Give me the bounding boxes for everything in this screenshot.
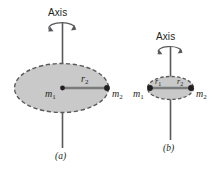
mass-label-m1-b-subscript: 1 [140,93,144,101]
mass-marker-m2-a [104,85,110,91]
radius-label-r2-b: r2 [177,78,183,86]
mass-label-m2-b-subscript: 2 [203,93,207,101]
radius-label-r1-b-subscript: 1 [158,81,161,87]
mass-label-m2-b: m2 [196,89,207,99]
radius-label-r2-a: r2 [81,74,88,84]
mass-marker-m1-a [60,86,65,91]
panel-a-graphics [15,23,110,149]
panel-caption-b: (b) [163,144,174,154]
radius-label-r2-b-subscript: 2 [180,81,183,87]
mass-marker-m1-b [147,85,153,91]
radius-label-r2-a-subscript: 2 [85,78,89,86]
physics-figure: Axis m1 r2 m2 (a) Axis m1 r1 r2 m2 (b) [0,0,214,169]
mass-label-m2-a-subscript: 2 [119,93,123,101]
panel-caption-a: (a) [55,152,66,162]
mass-label-m1-a: m1 [45,89,56,99]
mass-label-m1-b: m1 [133,89,144,99]
axis-label-a: Axis [48,8,67,18]
mass-marker-m2-b [188,85,194,91]
mass-label-m2-a: m2 [112,89,123,99]
radius-label-r1-b: r1 [155,78,161,86]
axis-label-b: Axis [156,32,175,42]
mass-label-m1-a-subscript: 1 [52,93,56,101]
panel-b-graphics [147,46,194,140]
